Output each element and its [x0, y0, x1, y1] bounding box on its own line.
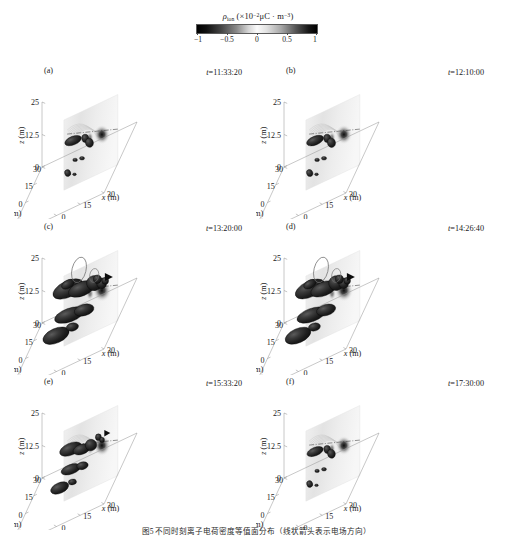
svg-text:15: 15 [267, 182, 275, 191]
svg-text:z (m): z (m) [259, 437, 268, 455]
panel-c-plot: 012.525z (m)30150−15−30y (m)−30−1501530x… [14, 218, 254, 375]
panel-d: (d) t=14:26:40 012.525z (m)30150−15−30y … [256, 218, 496, 375]
svg-text:12.5: 12.5 [267, 442, 281, 451]
svg-text:25: 25 [31, 409, 39, 418]
svg-text:25: 25 [273, 254, 281, 263]
figure-caption: 图5 不同时刻离子电荷密度等值面分布（线状箭头表示电场方向） [0, 527, 513, 536]
svg-text:12.5: 12.5 [25, 442, 39, 451]
svg-text:30: 30 [275, 165, 283, 174]
colorbar-tick-0: −1 [194, 35, 202, 44]
svg-text:z (m): z (m) [17, 126, 26, 144]
svg-text:z (m): z (m) [259, 282, 268, 300]
panel-c: (c) t=13:20:00 012.525z (m)30150−15−30y … [14, 218, 254, 375]
colorbar-subscript: ion [227, 16, 234, 22]
svg-text:z (m): z (m) [17, 282, 26, 300]
svg-text:30: 30 [275, 321, 283, 330]
svg-text:15: 15 [25, 338, 33, 347]
svg-text:15: 15 [325, 201, 333, 210]
svg-text:15: 15 [83, 201, 91, 210]
svg-text:25: 25 [273, 98, 281, 107]
figure-root: ρion (×10−2μC · m−3) −1 −0.5 0 0.5 1 (a)… [0, 0, 513, 542]
svg-text:x (m): x (m) [101, 349, 120, 358]
svg-text:z (m): z (m) [259, 126, 268, 144]
svg-text:15: 15 [83, 512, 91, 521]
svg-text:12.5: 12.5 [267, 287, 281, 296]
colorbar-tick-4: 1 [313, 35, 317, 44]
svg-text:12.5: 12.5 [267, 131, 281, 140]
svg-text:y (m): y (m) [14, 209, 22, 218]
svg-text:30: 30 [33, 165, 41, 174]
svg-text:15: 15 [83, 357, 91, 366]
svg-text:12.5: 12.5 [25, 287, 39, 296]
svg-text:x (m): x (m) [101, 504, 120, 513]
svg-text:z (m): z (m) [17, 437, 26, 455]
svg-text:12.5: 12.5 [25, 131, 39, 140]
svg-text:15: 15 [267, 493, 275, 502]
svg-text:15: 15 [325, 512, 333, 521]
svg-text:x (m): x (m) [343, 504, 362, 513]
svg-text:y (m): y (m) [256, 209, 264, 218]
panel-f: (f) t=17:30:00 012.525z (m)30150−15−30y … [256, 373, 496, 530]
svg-text:15: 15 [325, 357, 333, 366]
svg-text:x (m): x (m) [101, 193, 120, 202]
svg-text:25: 25 [31, 98, 39, 107]
colorbar-title: ρion (×10−2μC · m−3) [196, 12, 320, 22]
panel-a: (a) t=11:33:20 012.525z (m)30150−15−30y … [14, 62, 254, 219]
svg-text:0: 0 [19, 511, 23, 520]
colorbar-tick-1: −0.5 [220, 35, 234, 44]
panel-a-plot: 012.525z (m)30150−15−30y (m)−30−1501530x… [14, 62, 254, 219]
svg-text:30: 30 [33, 321, 41, 330]
svg-text:25: 25 [273, 409, 281, 418]
colorbar-tick-2: 0 [255, 35, 259, 44]
svg-text:15: 15 [267, 338, 275, 347]
svg-text:15: 15 [25, 182, 33, 191]
svg-text:x (m): x (m) [343, 349, 362, 358]
svg-text:0: 0 [261, 511, 265, 520]
panel-e-plot: 012.525z (m)30150−15−30y (m)−30−1501530x… [14, 373, 254, 530]
svg-text:30: 30 [33, 476, 41, 485]
svg-text:25: 25 [31, 254, 39, 263]
svg-text:0: 0 [19, 356, 23, 365]
svg-text:0: 0 [19, 200, 23, 209]
svg-text:30: 30 [275, 476, 283, 485]
colorbar-block: ρion (×10−2μC · m−3) −1 −0.5 0 0.5 1 [196, 12, 320, 46]
panel-f-plot: 012.525z (m)30150−15−30y (m)−30−1501530x… [256, 373, 496, 530]
svg-text:x (m): x (m) [343, 193, 362, 202]
colorbar-unit: (×10−2μC · m−3) [237, 11, 294, 21]
colorbar-tick-3: 0.5 [282, 35, 292, 44]
panel-b-plot: 012.525z (m)30150−15−30y (m)−30−1501530x… [256, 62, 496, 219]
panel-b: (b) t=12:10:00 012.525z (m)30150−15−30y … [256, 62, 496, 219]
svg-text:0: 0 [261, 356, 265, 365]
colorbar-ticks: −1 −0.5 0 0.5 1 [196, 35, 318, 46]
svg-text:0: 0 [261, 200, 265, 209]
svg-text:15: 15 [25, 493, 33, 502]
panel-d-plot: 012.525z (m)30150−15−30y (m)−30−1501530x… [256, 218, 496, 375]
panel-e: (e) t=15:33:20 012.525z (m)30150−15−30y … [14, 373, 254, 530]
